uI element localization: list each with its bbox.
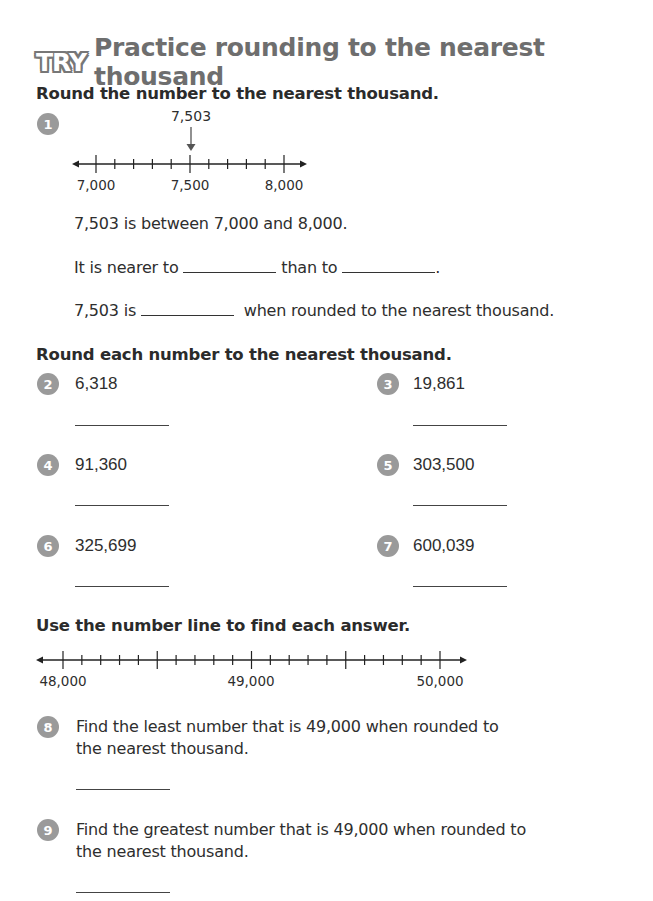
title-text: Practice rounding to the nearest thousan…	[94, 33, 653, 91]
question-text: Find the greatest number that is 49,000 …	[76, 819, 526, 863]
page-title: TRY Practice rounding to the nearest tho…	[36, 44, 653, 80]
answer-line[interactable]	[75, 505, 169, 506]
answer-line[interactable]	[413, 586, 507, 587]
tick-label-7500: 7,500	[171, 177, 210, 193]
question-line-1: Find the least number that is 49,000 whe…	[76, 716, 499, 738]
section1-instruction: Round the number to the nearest thousand…	[36, 84, 439, 103]
question-number-badge: 8	[37, 716, 59, 738]
sentence-between: 7,503 is between 7,000 and 8,000.	[74, 214, 347, 233]
question-number-badge: 9	[37, 819, 59, 841]
sentence-nearer: It is nearer to than to .	[74, 258, 440, 277]
tick-label-8000: 8,000	[265, 177, 304, 193]
question-value: 303,500	[413, 455, 474, 475]
answer-line[interactable]	[413, 425, 507, 426]
answer-line[interactable]	[75, 586, 169, 587]
answer-blank-rounded[interactable]	[141, 315, 234, 316]
rounded-label: 7,503 is	[74, 301, 136, 320]
question-number-badge: 7	[377, 535, 399, 557]
nearer-label: It is nearer to	[74, 258, 179, 277]
marked-value-label: 7,503	[171, 108, 211, 124]
question-value: 600,039	[413, 536, 474, 556]
answer-line[interactable]	[413, 505, 507, 506]
question-number-badge: 2	[37, 373, 59, 395]
tick-label-7000: 7,000	[77, 177, 116, 193]
tick-label-48000: 48,000	[39, 673, 86, 689]
question-line-2: the nearest thousand.	[76, 738, 499, 760]
question-value: 325,699	[75, 536, 136, 556]
question-value: 6,318	[75, 374, 118, 394]
answer-line[interactable]	[76, 892, 170, 893]
try-badge: TRY	[36, 50, 86, 75]
question-value: 91,360	[75, 455, 127, 475]
sentence-rounded: 7,503 is when rounded to the nearest tho…	[74, 301, 554, 320]
answer-blank-nearer[interactable]	[183, 272, 276, 273]
rounded-suffix: when rounded to the nearest thousand.	[244, 301, 554, 320]
section3-instruction: Use the number line to find each answer.	[36, 616, 410, 635]
question-text: Find the least number that is 49,000 whe…	[76, 716, 499, 760]
question-number-badge: 3	[377, 373, 399, 395]
than-label: than to	[281, 258, 337, 277]
question-value: 19,861	[413, 374, 465, 394]
number-line-7000-8000	[70, 154, 310, 174]
question-line-1: Find the greatest number that is 49,000 …	[76, 819, 526, 841]
answer-blank-than[interactable]	[342, 272, 435, 273]
tick-label-50000: 50,000	[416, 673, 463, 689]
question-number-badge: 5	[377, 454, 399, 476]
tick-label-49000: 49,000	[227, 673, 274, 689]
period: .	[435, 258, 440, 277]
number-line-48000-50000	[34, 650, 470, 672]
down-arrow-icon	[185, 127, 197, 153]
question-number-badge: 1	[37, 113, 59, 135]
section2-instruction: Round each number to the nearest thousan…	[36, 345, 452, 364]
answer-line[interactable]	[75, 425, 169, 426]
answer-line[interactable]	[76, 789, 170, 790]
question-line-2: the nearest thousand.	[76, 841, 526, 863]
question-number-badge: 6	[37, 535, 59, 557]
question-number-badge: 4	[37, 454, 59, 476]
